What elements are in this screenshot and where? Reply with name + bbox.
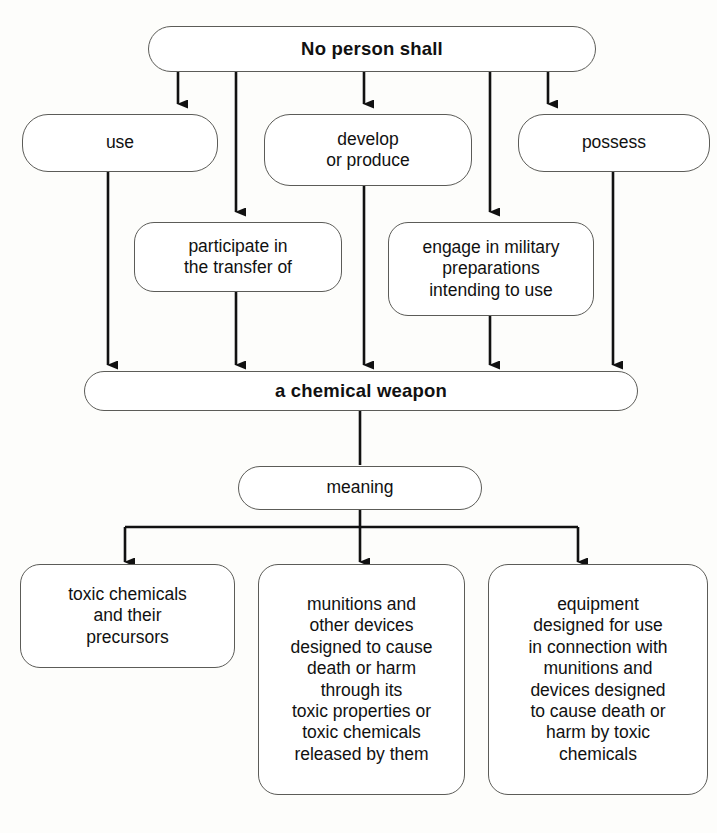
node-a-chemical-weapon[interactable]: a chemical weapon bbox=[84, 371, 638, 411]
node-participate-in-transfer-label: participate in the transfer of bbox=[141, 236, 335, 279]
node-toxic-chemicals-precursors[interactable]: toxic chemicals and their precursors bbox=[20, 564, 235, 668]
node-equipment[interactable]: equipment designed for use in connection… bbox=[488, 564, 708, 795]
node-munitions-and-devices[interactable]: munitions and other devices designed to … bbox=[258, 564, 465, 795]
node-use[interactable]: use bbox=[22, 114, 218, 172]
node-equipment-label: equipment designed for use in connection… bbox=[495, 594, 701, 765]
node-engage-military-preparations-label: engage in military preparations intendin… bbox=[395, 237, 587, 301]
node-toxic-chemicals-precursors-label: toxic chemicals and their precursors bbox=[27, 584, 228, 648]
node-use-label: use bbox=[29, 132, 211, 153]
node-participate-in-transfer[interactable]: participate in the transfer of bbox=[134, 222, 342, 292]
node-possess-label: possess bbox=[525, 132, 703, 153]
node-munitions-and-devices-label: munitions and other devices designed to … bbox=[265, 594, 458, 765]
node-no-person-shall[interactable]: No person shall bbox=[148, 26, 596, 72]
node-develop-or-produce[interactable]: develop or produce bbox=[264, 114, 472, 186]
node-possess[interactable]: possess bbox=[518, 114, 710, 172]
node-engage-military-preparations[interactable]: engage in military preparations intendin… bbox=[388, 222, 594, 316]
node-a-chemical-weapon-label: a chemical weapon bbox=[91, 380, 631, 403]
flowchart-canvas: No person shall use develop or produce p… bbox=[0, 0, 717, 833]
node-no-person-shall-label: No person shall bbox=[155, 38, 589, 61]
node-meaning[interactable]: meaning bbox=[238, 466, 482, 510]
node-meaning-label: meaning bbox=[245, 477, 475, 498]
node-develop-or-produce-label: develop or produce bbox=[271, 129, 465, 172]
